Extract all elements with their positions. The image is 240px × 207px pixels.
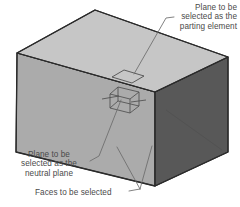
label-parting-element: Plane to be selected as the parting elem… [180, 3, 237, 31]
leader-faces-stem [129, 189, 140, 191]
label-faces-to-be-selected: Faces to be selected [35, 188, 112, 197]
label-neutral-plane: Plane to be selected as the neutral plan… [2, 150, 96, 178]
diagram-canvas: Plane to be selected as the parting elem… [0, 0, 240, 207]
